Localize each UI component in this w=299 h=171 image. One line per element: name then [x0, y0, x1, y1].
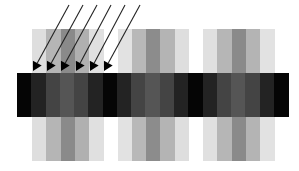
contrast-illusion-figure [0, 0, 299, 171]
arrow-annotations [0, 0, 299, 171]
arrow-icon [104, 5, 140, 71]
arrow-icon [47, 5, 83, 71]
arrow-icon [90, 5, 125, 71]
arrow-icon [76, 5, 111, 71]
arrow-icon [61, 5, 97, 71]
arrow-icon [33, 5, 69, 71]
